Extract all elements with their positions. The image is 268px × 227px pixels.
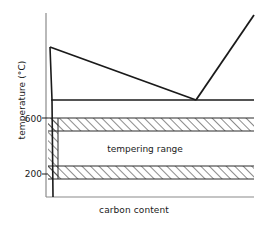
x-axis-label: carbon content bbox=[0, 205, 268, 215]
hatched-band-lower bbox=[48, 166, 254, 179]
phase-diagram-figure: temperature (°C) carbon content 600 200 … bbox=[0, 0, 268, 227]
y-tick-label-200: 200 bbox=[14, 169, 42, 179]
tempering-range-label: tempering range bbox=[80, 144, 210, 154]
hatched-band-upper bbox=[48, 118, 254, 131]
y-tick-label-600: 600 bbox=[14, 114, 42, 124]
acm-phase-boundary-line bbox=[196, 15, 254, 100]
y-axis-label: temperature (°C) bbox=[17, 40, 27, 160]
a3-phase-boundary-line bbox=[50, 47, 196, 100]
